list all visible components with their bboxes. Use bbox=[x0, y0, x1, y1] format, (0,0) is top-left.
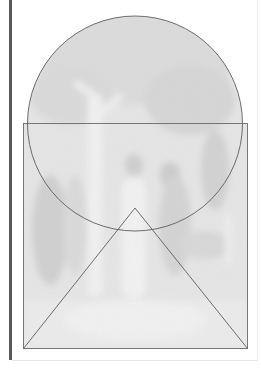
faded-painting bbox=[0, 0, 261, 376]
composition-figure bbox=[0, 0, 261, 376]
book-page bbox=[0, 0, 261, 376]
